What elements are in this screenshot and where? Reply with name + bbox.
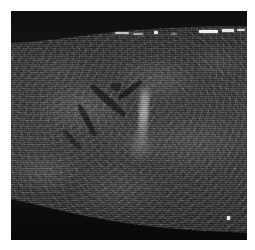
specular-reflection-4 [199,30,218,33]
vessel-branch-tail [61,128,82,151]
vignette-overlay [11,11,247,240]
vessel-branch-left [89,83,128,119]
image-viewport [0,0,255,250]
specular-reflection-3 [154,31,158,34]
scanline-artifact-layer [11,11,247,240]
tissue-texture-base [11,11,247,240]
speckle-noise-layer-a [11,11,247,240]
speckle-noise-layer-b [11,11,247,240]
vessel-node [111,83,121,91]
lower-dark-shadow-region [11,188,247,240]
vessel-branch-lower [76,103,98,138]
specular-reflection-2 [133,33,143,35]
isolated-bright-speck [227,216,230,220]
upper-dark-void-region [11,11,247,43]
scan-image [11,11,247,240]
specular-reflection-6 [237,29,245,31]
specular-reflection-7 [171,33,177,35]
specular-reflection-5 [222,29,234,32]
specular-reflection-1 [115,32,129,34]
